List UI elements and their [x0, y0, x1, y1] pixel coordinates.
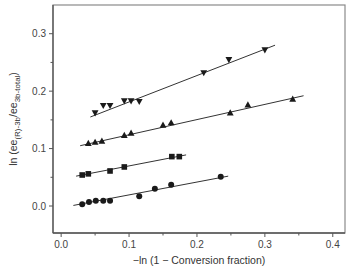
triangle-up-marker: [168, 119, 175, 125]
x-tick-label: 0.2: [190, 239, 204, 250]
circle-marker: [152, 186, 158, 192]
x-tick-label: 0.4: [326, 239, 340, 250]
y-tick-label: 0.0: [32, 201, 46, 212]
circle-marker: [136, 193, 142, 199]
series-triangles-up: [80, 96, 303, 146]
circle-marker: [168, 182, 174, 188]
triangle-down-marker: [128, 98, 135, 104]
scatter-chart: 0.00.10.20.30.4 0.00.10.20.3 −ln (1 − Co…: [0, 0, 351, 272]
y-axis: 0.00.10.20.3: [32, 28, 53, 211]
triangle-down-marker: [121, 98, 128, 104]
circle-marker: [100, 198, 106, 204]
y-tick-label: 0.2: [32, 86, 46, 97]
square-marker: [177, 154, 183, 160]
y-tick-label: 0.1: [32, 143, 46, 154]
triangle-down-marker: [100, 103, 107, 109]
fit-line: [80, 96, 303, 146]
circle-marker: [218, 174, 224, 180]
x-tick-label: 0.3: [258, 239, 272, 250]
square-marker: [107, 168, 113, 174]
data-series: [73, 45, 303, 207]
square-marker: [169, 154, 175, 160]
y-tick-label: 0.3: [32, 28, 46, 39]
y-axis-title: ln (ee(R)-3b/ee3b-total): [7, 72, 22, 166]
square-marker: [79, 172, 85, 178]
x-axis-title: −ln (1 − Conversion fraction): [133, 254, 265, 266]
circle-marker: [93, 198, 99, 204]
square-marker: [122, 164, 128, 170]
triangle-down-marker: [136, 99, 143, 105]
circle-marker: [79, 201, 85, 207]
series-circles: [73, 174, 228, 208]
triangle-up-marker: [128, 129, 135, 135]
x-tick-label: 0.1: [122, 239, 136, 250]
circle-marker: [107, 198, 113, 204]
square-marker: [86, 171, 92, 177]
x-axis: 0.00.10.20.30.4: [54, 233, 340, 250]
x-tick-label: 0.0: [54, 239, 68, 250]
circle-marker: [86, 199, 92, 205]
series-squares: [76, 154, 186, 178]
triangle-down-marker: [200, 70, 207, 76]
triangle-up-marker: [244, 101, 251, 107]
triangle-up-marker: [160, 121, 167, 127]
